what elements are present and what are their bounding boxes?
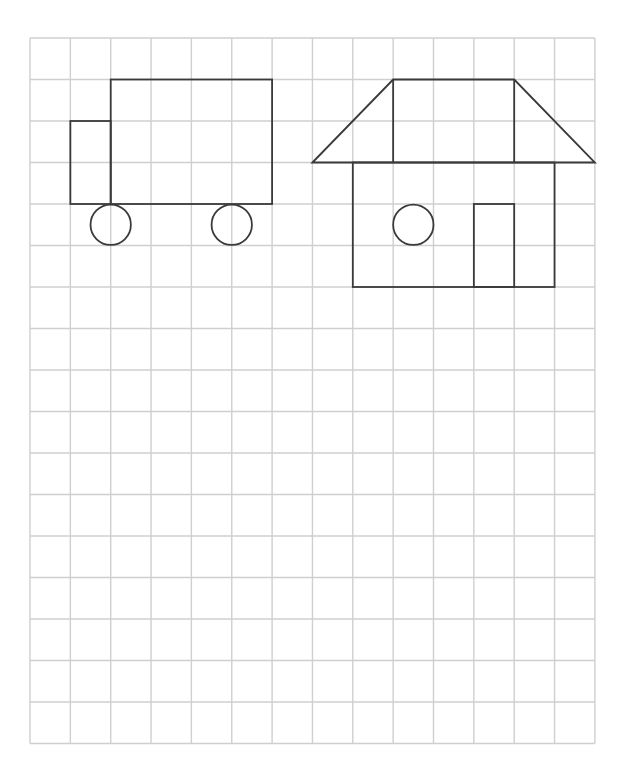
house-figure: [312, 80, 594, 288]
house-window: [393, 205, 433, 245]
grid-lines: [30, 38, 595, 744]
grid-drawing: [0, 0, 625, 774]
shapes: [70, 80, 595, 288]
house-walls: [353, 163, 555, 288]
